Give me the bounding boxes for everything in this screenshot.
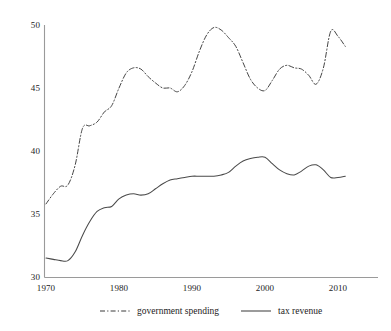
y-tick-30: 30 bbox=[18, 272, 40, 282]
legend-entry-government-spending: government spending bbox=[100, 306, 219, 316]
legend-entry-tax-revenue: tax revenue bbox=[241, 306, 322, 316]
x-tick-1990: 1990 bbox=[172, 283, 212, 293]
line-chart: 50 45 40 35 30 1970 1980 1990 2000 2010 … bbox=[0, 0, 391, 331]
y-tick-40: 40 bbox=[18, 146, 40, 156]
chart-legend: government spending tax revenue bbox=[100, 303, 322, 319]
y-tick-45: 45 bbox=[18, 83, 40, 93]
legend-label-tax-revenue: tax revenue bbox=[278, 306, 322, 316]
legend-label-government-spending: government spending bbox=[137, 306, 219, 316]
dashdot-line-icon bbox=[100, 306, 130, 316]
x-tick-1980: 1980 bbox=[99, 283, 139, 293]
axis-lines bbox=[45, 25, 379, 278]
x-tick-2000: 2000 bbox=[245, 283, 285, 293]
series-line-government-spending bbox=[46, 27, 345, 204]
series-line-tax-revenue bbox=[46, 157, 345, 262]
y-tick-35: 35 bbox=[18, 209, 40, 219]
plot-area bbox=[0, 0, 391, 331]
x-tick-1970: 1970 bbox=[26, 283, 66, 293]
solid-line-icon bbox=[241, 306, 271, 316]
y-tick-50: 50 bbox=[18, 20, 40, 30]
x-tick-2010: 2010 bbox=[318, 283, 358, 293]
series-layer bbox=[46, 27, 345, 261]
